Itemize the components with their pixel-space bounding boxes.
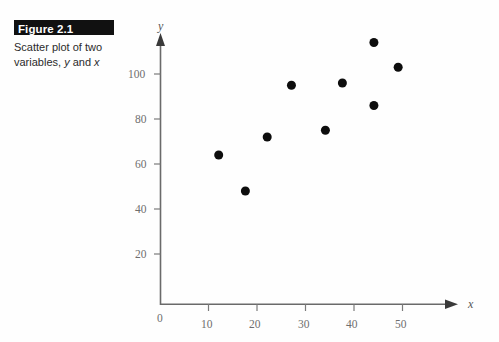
x-tick-label-50: 50 — [395, 318, 407, 330]
y-axis-title: y — [157, 19, 164, 33]
x-axis-title: x — [467, 297, 474, 311]
scatter-plot: y 100 80 60 40 20 x — [0, 0, 499, 342]
data-point — [369, 38, 378, 47]
y-tick-label-40: 40 — [135, 203, 147, 215]
y-tick-label-80: 80 — [135, 113, 147, 125]
data-point — [338, 79, 347, 88]
y-tick-label-100: 100 — [128, 68, 146, 80]
data-point — [287, 81, 296, 90]
data-point — [394, 63, 403, 72]
y-tick-label-60: 60 — [135, 158, 147, 170]
x-tick-label-40: 40 — [346, 318, 358, 330]
data-point — [263, 133, 272, 142]
data-point — [369, 101, 378, 110]
origin-label: 0 — [157, 312, 163, 324]
y-axis-group: y 100 80 60 40 20 — [128, 19, 165, 305]
y-axis-arrow-icon — [156, 33, 165, 46]
data-point-group — [214, 38, 402, 196]
x-axis-group: x 10 20 30 40 50 0 — [157, 297, 474, 330]
y-tick-label-20: 20 — [135, 248, 147, 260]
x-tick-label-10: 10 — [201, 318, 213, 330]
x-axis-arrow-icon — [445, 300, 458, 309]
data-point — [321, 126, 330, 135]
x-tick-label-30: 30 — [298, 318, 310, 330]
figure-page: Figure 2.1 Scatter plot of two variables… — [0, 0, 499, 342]
plot-canvas: y 100 80 60 40 20 x — [0, 0, 499, 342]
x-tick-label-20: 20 — [249, 318, 261, 330]
data-point — [241, 187, 250, 196]
data-point — [214, 151, 223, 160]
